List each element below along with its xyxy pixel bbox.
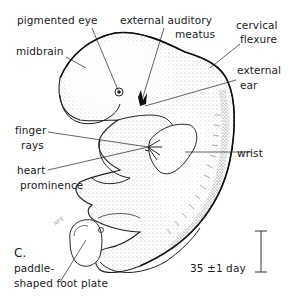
label-finger-rays-line2: rays bbox=[21, 139, 44, 151]
age-label: 35 ±1 day bbox=[190, 262, 246, 274]
label-external-ear-line2: ear bbox=[240, 79, 258, 91]
label-external-ear-line1: external bbox=[237, 64, 281, 76]
artist-initials: NPY bbox=[51, 215, 65, 227]
embryo-diagram: NPY pigmente bbox=[0, 0, 294, 302]
foot-plate bbox=[70, 220, 104, 267]
label-cervical-flexure-line2: flexure bbox=[240, 33, 277, 45]
label-wrist: wrist bbox=[237, 147, 263, 159]
label-cervical-flexure-line1: cervical bbox=[236, 19, 278, 31]
label-midbrain: midbrain bbox=[16, 45, 64, 57]
label-finger-rays-line1: finger bbox=[15, 124, 46, 136]
label-foot-plate-line1: paddle- bbox=[14, 262, 54, 274]
label-external-auditory-meatus-line2: meatus bbox=[175, 28, 215, 40]
label-pigmented-eye: pigmented eye bbox=[17, 14, 98, 26]
plate-letter: C. bbox=[14, 247, 26, 259]
scale-bar bbox=[255, 231, 267, 272]
label-heart-prominence-line2: prominence bbox=[20, 179, 83, 191]
label-heart-prominence-line1: heart bbox=[17, 164, 45, 176]
label-external-auditory-meatus-line1: external auditory bbox=[120, 14, 212, 26]
pigmented-eye-shape bbox=[115, 88, 123, 96]
label-foot-plate-line2: shaped foot plate bbox=[14, 277, 108, 289]
